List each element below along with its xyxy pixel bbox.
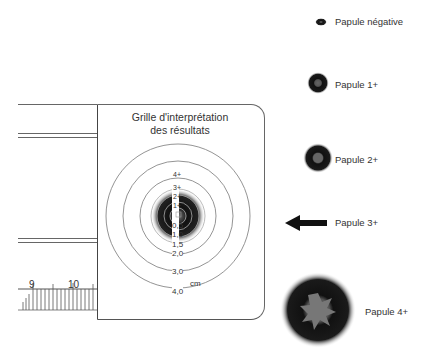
legend-papule-4: Papule 4+ — [365, 306, 408, 317]
legend-papule-2: Papule 2+ — [335, 154, 378, 165]
ring-label-4-0: 4,0 — [172, 287, 183, 296]
ruler-label-9: 9 — [29, 279, 35, 290]
ring-label-2-0: 2,0 — [172, 249, 183, 258]
ruler-label-10: 10 — [68, 279, 79, 290]
grade-label-3: 3+ — [173, 184, 181, 191]
arrow-left-icon — [285, 215, 327, 231]
legend-papule-negative: Papule négative — [335, 16, 403, 27]
legend-papule-1: Papule 1+ — [335, 79, 378, 90]
ring-label-1-0: 1,0 — [172, 230, 183, 239]
grade-label-4: 4+ — [173, 171, 181, 178]
ring-label-0-5: 0,5 — [172, 221, 183, 230]
ring-label-1-5: 1,5 — [172, 240, 183, 249]
ring-label-3-0: 3,0 — [172, 267, 183, 276]
grade-label-1: 1+ — [173, 202, 181, 209]
unit-label: cm — [190, 279, 201, 288]
grade-label-2: 2+ — [173, 193, 181, 200]
legend-papule-3: Papule 3+ — [335, 217, 378, 228]
